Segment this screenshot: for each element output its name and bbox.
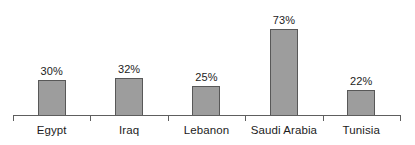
bar-value-label: 22% [350, 75, 372, 87]
category-label: Egypt [37, 124, 67, 136]
category-label: Saudi Arabia [251, 124, 317, 136]
bar-value-label: 25% [195, 71, 217, 83]
bar-group: 30% [13, 0, 90, 116]
bar-group: 25% [168, 0, 245, 116]
category-label: Lebanon [184, 124, 229, 136]
bar-group: 73% [245, 0, 322, 116]
bar [270, 29, 298, 116]
bar-value-label: 73% [273, 14, 295, 26]
x-axis-line [13, 115, 401, 116]
bar-value-label: 32% [118, 63, 140, 75]
axis-tick [13, 116, 14, 121]
bar [115, 78, 143, 116]
bar [192, 86, 220, 116]
axis-tick [400, 116, 401, 121]
x-axis-category-labels: EgyptIraqLebanonSaudi ArabiaTunisia [13, 124, 400, 144]
bar [347, 90, 375, 116]
category-label: Tunisia [343, 124, 380, 136]
plot-area: 30%32%25%73%22% [13, 0, 400, 116]
bar-chart: 30%32%25%73%22% EgyptIraqLebanonSaudi Ar… [0, 0, 415, 145]
category-label: Iraq [119, 124, 139, 136]
bar-value-label: 30% [41, 65, 63, 77]
bar-group: 22% [323, 0, 400, 116]
axis-tick [323, 116, 324, 121]
axis-tick [245, 116, 246, 121]
axis-tick [90, 116, 91, 121]
bar-group: 32% [90, 0, 167, 116]
bar [38, 80, 66, 116]
axis-tick [168, 116, 169, 121]
